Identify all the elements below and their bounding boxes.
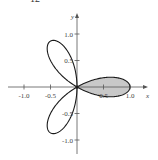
- origin-point: [75, 85, 78, 88]
- y-tick-label: -0.5: [62, 110, 74, 118]
- tick-labels: -1.0-0.50.51.01.00.5-0.5-1.0xy: [18, 13, 150, 145]
- x-axis-label: x: [145, 92, 150, 100]
- x-axis-arrow-icon: [143, 85, 148, 89]
- x-tick-label: -1.0: [18, 92, 30, 100]
- y-axis-label: y: [70, 13, 75, 21]
- y-tick-label: 1.0: [64, 31, 73, 39]
- polar-rose-plot: -1.0-0.50.51.01.00.5-0.5-1.0xy: [0, 0, 158, 160]
- x-tick-label: 1.0: [126, 92, 135, 100]
- y-tick-label: -1.0: [62, 137, 74, 145]
- x-tick-label: -0.5: [45, 92, 57, 100]
- y-tick-label: 0.5: [64, 57, 73, 65]
- x-tick-label: 0.5: [99, 92, 108, 100]
- y-axis-arrow-icon: [75, 13, 79, 18]
